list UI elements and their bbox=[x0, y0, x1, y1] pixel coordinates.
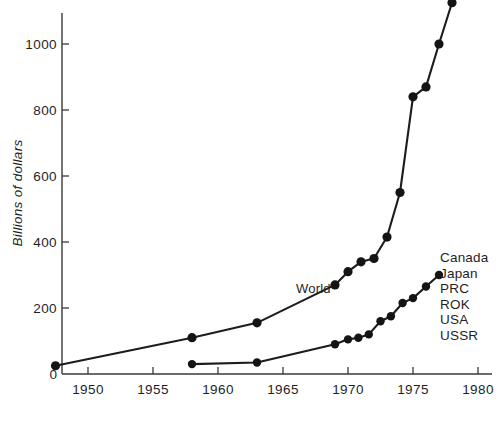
data-point bbox=[369, 254, 378, 263]
x-axis: 1950195519601965197019751980 bbox=[62, 367, 494, 397]
x-tick-label-1955: 1955 bbox=[137, 382, 169, 397]
series-group bbox=[51, 0, 457, 370]
data-point bbox=[253, 358, 261, 366]
data-point bbox=[422, 282, 430, 290]
data-point bbox=[331, 340, 339, 348]
x-axis-tick-labels: 1950195519601965197019751980 bbox=[72, 382, 494, 397]
line-chart-svg: 020040060080010001200 Billions of dollar… bbox=[0, 0, 503, 434]
data-point bbox=[252, 318, 261, 327]
data-point bbox=[434, 39, 443, 48]
y-axis: 020040060080010001200 Billions of dollar… bbox=[10, 0, 69, 382]
annotations-group: World bbox=[296, 281, 331, 296]
legend-item-rok: ROK bbox=[440, 297, 470, 312]
x-axis-ticks bbox=[88, 367, 478, 374]
data-point bbox=[354, 334, 362, 342]
legend-item-ussr: USSR bbox=[440, 328, 478, 343]
x-tick-label-1950: 1950 bbox=[72, 382, 104, 397]
x-tick-label-1960: 1960 bbox=[202, 382, 234, 397]
y-axis-ticks bbox=[62, 0, 69, 308]
data-point bbox=[387, 312, 395, 320]
legend-item-japan: Japan bbox=[440, 266, 478, 281]
legend-item-usa: USA bbox=[440, 312, 468, 327]
data-point bbox=[344, 335, 352, 343]
x-tick-label-1980: 1980 bbox=[462, 382, 494, 397]
y-tick-label-800: 800 bbox=[33, 103, 57, 118]
x-tick-label-1965: 1965 bbox=[267, 382, 299, 397]
data-point bbox=[408, 92, 417, 101]
data-point bbox=[447, 0, 456, 7]
x-tick-label-1975: 1975 bbox=[397, 382, 429, 397]
data-point bbox=[398, 299, 406, 307]
data-point bbox=[421, 82, 430, 91]
series-markers-world bbox=[51, 0, 457, 370]
data-point bbox=[409, 294, 417, 302]
data-point bbox=[51, 361, 60, 370]
legend-item-canada: Canada bbox=[440, 250, 489, 265]
legend: CanadaJapanPRCROKUSAUSSR bbox=[440, 250, 489, 343]
series-annotation-world: World bbox=[296, 281, 331, 296]
y-tick-label-400: 400 bbox=[33, 235, 57, 250]
data-point bbox=[356, 257, 365, 266]
y-tick-label-1000: 1000 bbox=[25, 37, 57, 52]
data-point bbox=[343, 267, 352, 276]
chart-figure: 020040060080010001200 Billions of dollar… bbox=[0, 0, 503, 434]
data-point bbox=[187, 333, 196, 342]
x-tick-label-1970: 1970 bbox=[332, 382, 364, 397]
y-tick-label-600: 600 bbox=[33, 169, 57, 184]
data-point bbox=[376, 317, 384, 325]
series-line-world bbox=[56, 3, 453, 366]
data-point bbox=[330, 280, 339, 289]
data-point bbox=[188, 360, 196, 368]
data-point bbox=[395, 188, 404, 197]
y-axis-tick-labels: 020040060080010001200 bbox=[25, 0, 57, 382]
data-point bbox=[382, 232, 391, 241]
y-axis-title: Billions of dollars bbox=[10, 140, 25, 247]
data-point bbox=[365, 330, 373, 338]
y-tick-label-200: 200 bbox=[33, 301, 57, 316]
legend-item-prc: PRC bbox=[440, 281, 469, 296]
